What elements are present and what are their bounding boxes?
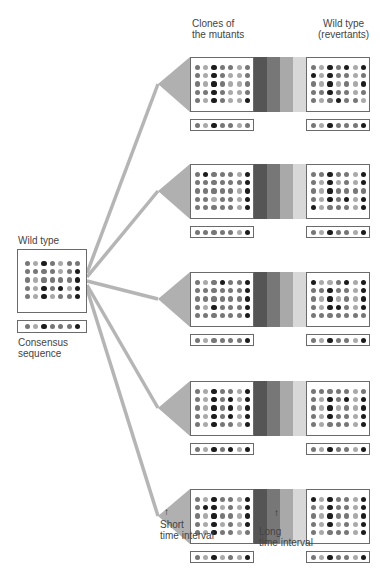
sequence-dot (203, 497, 208, 502)
sequence-dot (220, 530, 225, 535)
sequence-dot (311, 497, 316, 502)
sequence-dot (33, 286, 38, 291)
sequence-dot (211, 405, 216, 410)
sequence-dot (25, 277, 30, 282)
time-gradient-band (293, 57, 306, 112)
sequence-dot (237, 555, 242, 560)
sequence-dot (353, 405, 358, 410)
sequence-dot (319, 172, 324, 177)
sequence-dot (361, 530, 366, 535)
sequence-dot (228, 497, 233, 502)
sequence-dot (344, 197, 349, 202)
sequence-dot (319, 73, 324, 78)
sequence-dot (361, 180, 366, 185)
sequence-dot (203, 81, 208, 86)
sequence-dot (220, 389, 225, 394)
sequence-dot (211, 188, 216, 193)
sequence-dot (311, 230, 316, 235)
sequence-dot (220, 172, 225, 177)
sequence-dot (245, 73, 250, 78)
sequence-dot (327, 205, 332, 210)
sequence-dot (220, 73, 225, 78)
sequence-dot (228, 205, 233, 210)
revertant-dots (309, 387, 368, 429)
sequence-dot (311, 90, 316, 95)
sequence-dot (25, 324, 30, 329)
sequence-dot (344, 180, 349, 185)
sequence-dot (228, 338, 233, 343)
sequence-dot (25, 261, 30, 266)
sequence-dot (311, 414, 316, 419)
sequence-dot (195, 280, 200, 285)
sequence-dot (228, 81, 233, 86)
sequence-dot (353, 280, 358, 285)
sequence-dot (311, 197, 316, 202)
sequence-dot (228, 513, 233, 518)
sequence-dot (237, 197, 242, 202)
sequence-dot (327, 65, 332, 70)
sequence-dot (33, 269, 38, 274)
sequence-dot (336, 197, 341, 202)
sequence-dot (75, 286, 80, 291)
sequence-dot (237, 505, 242, 510)
sequence-dot (228, 305, 233, 310)
sequence-dot (344, 73, 349, 78)
revertant-consensus-strip (306, 334, 370, 346)
sequence-dot (220, 288, 225, 293)
sequence-dot (319, 447, 324, 452)
revertant-consensus-dots (309, 228, 368, 236)
revertant-consensus-strip (306, 551, 370, 563)
sequence-dot (361, 123, 366, 128)
sequence-dot (361, 65, 366, 70)
sequence-dot (361, 422, 366, 427)
revertant-dots (309, 495, 368, 537)
sequence-dot (228, 414, 233, 419)
sequence-dot (25, 294, 30, 299)
sequence-dot (319, 513, 324, 518)
sequence-dot (33, 294, 38, 299)
sequence-dot (353, 522, 358, 527)
sequence-dot (195, 288, 200, 293)
sequence-dot (203, 555, 208, 560)
sequence-dot (75, 324, 80, 329)
revertant-consensus-dots (309, 121, 368, 129)
sequence-dot (50, 269, 55, 274)
sequence-dot (353, 65, 358, 70)
sequence-dot (311, 422, 316, 427)
clones-header-line1: Clones of (192, 18, 244, 29)
sequence-dot (245, 313, 250, 318)
sequence-dot (33, 324, 38, 329)
sequence-dot (336, 405, 341, 410)
sequence-dot (203, 513, 208, 518)
sequence-dot (211, 296, 216, 301)
sequence-dot (67, 294, 72, 299)
sequence-dot (195, 305, 200, 310)
sequence-dot (237, 123, 242, 128)
sequence-dot (344, 522, 349, 527)
sequence-dot (228, 530, 233, 535)
sequence-dot (203, 188, 208, 193)
sequence-dot (336, 513, 341, 518)
sequence-dot (311, 447, 316, 452)
sequence-dot (327, 338, 332, 343)
sequence-dot (336, 313, 341, 318)
sequence-dot (195, 123, 200, 128)
sequence-dot (237, 296, 242, 301)
sequence-dot (353, 230, 358, 235)
sequence-dot (361, 90, 366, 95)
sequence-dot (203, 414, 208, 419)
sequence-dot (344, 188, 349, 193)
sequence-dot (237, 180, 242, 185)
sequence-dot (344, 280, 349, 285)
sequence-dot (327, 197, 332, 202)
short-interval-line2: time interval (160, 530, 214, 541)
sequence-dot (211, 90, 216, 95)
sequence-dot (344, 497, 349, 502)
clones-header: Clones of the mutants (192, 18, 244, 40)
sequence-dot (344, 389, 349, 394)
sequence-dot (220, 123, 225, 128)
sequence-dot (237, 205, 242, 210)
sequence-dot (228, 405, 233, 410)
sequence-dot (245, 397, 250, 402)
revertant-consensus-dots (309, 445, 368, 453)
